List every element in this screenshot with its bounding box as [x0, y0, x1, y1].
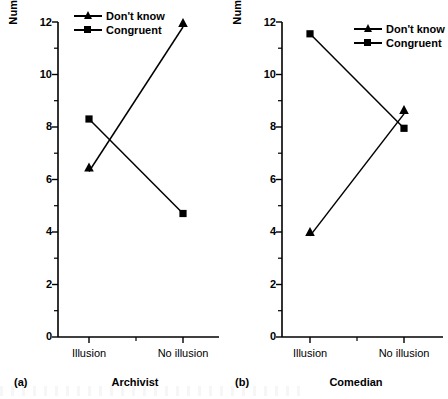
panel-archivist: Number of answers — [0, 0, 224, 399]
square-marker-icon — [354, 36, 382, 50]
y-tick-12-b: 12 — [250, 17, 276, 28]
triangle-marker-icon — [354, 22, 382, 36]
scan-artifact — [0, 386, 300, 396]
x-tick-no-illusion-a: No illusion — [143, 347, 223, 359]
y-tick-6-a: 6 — [26, 174, 52, 185]
y-tick-2-a: 2 — [26, 279, 52, 290]
y-tick-12-a: 12 — [26, 17, 52, 28]
legend-entry-congruent-b: Congruent — [354, 36, 445, 50]
x-tick-illusion-a: Illusion — [49, 347, 129, 359]
legend-label-dont-know-b: Don't know — [386, 22, 445, 36]
panel-title-b: Comedian — [276, 376, 436, 388]
panel-comedian: Number of answers — [224, 0, 448, 399]
y-tick-4-b: 4 — [250, 226, 276, 237]
y-tick-10-b: 10 — [250, 69, 276, 80]
x-tick-illusion-b: Illusion — [270, 347, 350, 359]
legend-entry-congruent-a: Congruent — [74, 23, 165, 37]
legend-a: Don't know Congruent — [74, 9, 165, 37]
figure-two-panel-line-chart: Number of answers — [0, 0, 448, 399]
y-tick-10-a: 10 — [26, 69, 52, 80]
y-tick-8-a: 8 — [26, 121, 52, 132]
y-tick-0-a: 0 — [26, 331, 52, 342]
y-tick-0-b: 0 — [250, 331, 276, 342]
legend-label-dont-know-a: Don't know — [106, 9, 165, 23]
y-tick-4-a: 4 — [26, 226, 52, 237]
legend-label-congruent-b: Congruent — [386, 36, 442, 50]
y-tick-8-b: 8 — [250, 121, 276, 132]
x-tick-no-illusion-b: No illusion — [364, 347, 444, 359]
legend-entry-dont-know-a: Don't know — [74, 9, 165, 23]
legend-label-congruent-a: Congruent — [106, 23, 162, 37]
y-tick-2-b: 2 — [250, 279, 276, 290]
triangle-marker-icon — [74, 9, 102, 23]
square-marker-icon — [74, 23, 102, 37]
y-tick-6-b: 6 — [250, 174, 276, 185]
legend-b: Don't know Congruent — [354, 22, 445, 50]
legend-entry-dont-know-b: Don't know — [354, 22, 445, 36]
